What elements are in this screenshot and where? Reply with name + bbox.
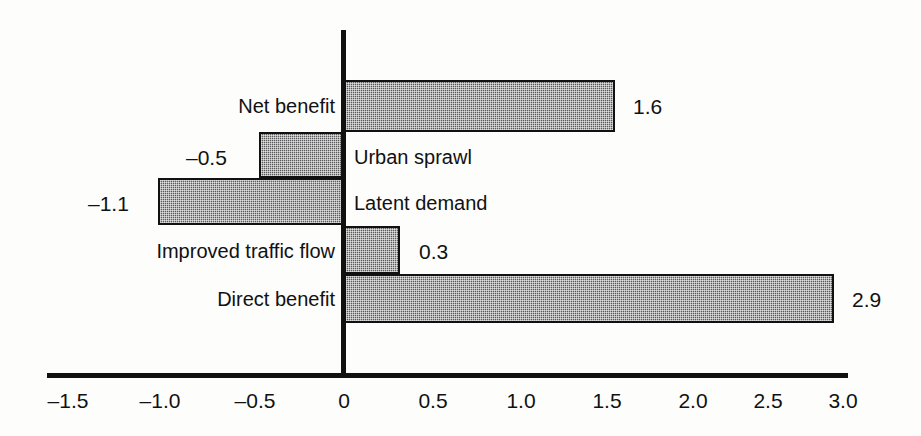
tick-mark-zero bbox=[341, 365, 345, 375]
category-label-net-benefit: Net benefit bbox=[100, 96, 335, 116]
bar-direct-benefit bbox=[344, 274, 834, 323]
xtick-label-0.5: 0.5 bbox=[388, 390, 478, 411]
bar-urban-sprawl bbox=[259, 132, 344, 178]
category-label-urban-sprawl: Urban sprawl bbox=[354, 147, 472, 167]
value-label-net-benefit: 1.6 bbox=[633, 96, 662, 117]
bar-chart-plot-area: Net benefit Urban sprawl Latent demand I… bbox=[0, 0, 921, 436]
value-label-improved-traffic-flow: 0.3 bbox=[419, 241, 448, 262]
zero-axis-line bbox=[341, 30, 346, 378]
value-label-direct-benefit: 2.9 bbox=[852, 289, 881, 310]
xtick-label-1.0: 1.0 bbox=[476, 390, 566, 411]
bar-net-benefit bbox=[344, 80, 615, 132]
category-label-improved-traffic-flow: Improved traffic flow bbox=[80, 241, 335, 261]
chart-page: Net benefit Urban sprawl Latent demand I… bbox=[0, 0, 921, 436]
bar-latent-demand bbox=[158, 178, 344, 225]
bar-improved-traffic-flow bbox=[344, 226, 400, 274]
category-label-direct-benefit: Direct benefit bbox=[100, 289, 335, 309]
value-label-urban-sprawl: –0.5 bbox=[186, 147, 227, 168]
xtick-label--1.5: –1.5 bbox=[23, 390, 113, 411]
value-axis-line bbox=[47, 373, 848, 378]
xtick-label-1.5: 1.5 bbox=[562, 390, 652, 411]
xtick-label-0: 0 bbox=[299, 390, 389, 411]
xtick-label--1.0: –1.0 bbox=[115, 390, 205, 411]
xtick-label--0.5: –0.5 bbox=[210, 390, 300, 411]
xtick-label-3.0: 3.0 bbox=[798, 390, 888, 411]
category-label-latent-demand: Latent demand bbox=[354, 193, 487, 213]
value-label-latent-demand: –1.1 bbox=[88, 193, 129, 214]
